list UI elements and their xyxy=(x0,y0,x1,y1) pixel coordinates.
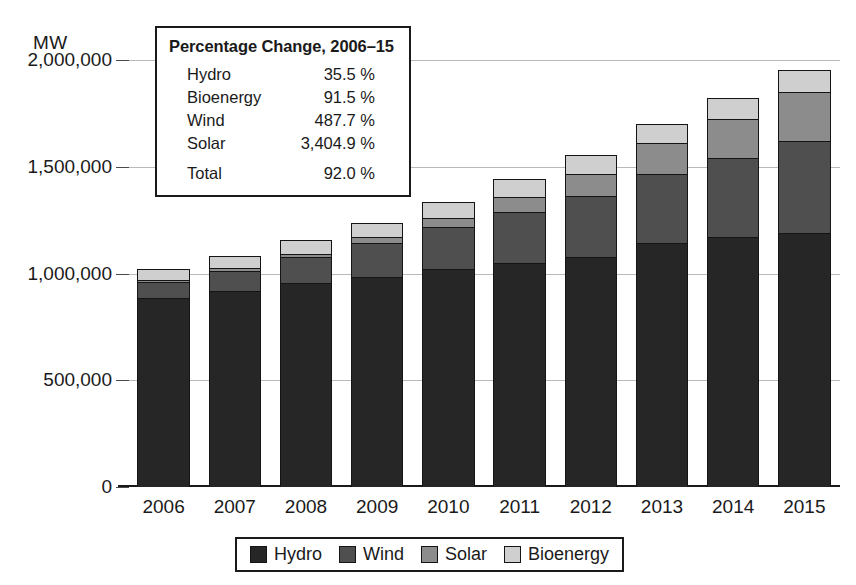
x-axis-label: 2007 xyxy=(214,496,256,518)
x-axis-label: 2008 xyxy=(285,496,327,518)
inset-row-value: 487.7 % xyxy=(281,109,397,132)
x-axis-label: 2013 xyxy=(641,496,683,518)
bar-group[interactable]: 2014 xyxy=(707,60,759,487)
legend-label: Wind xyxy=(363,544,404,565)
bar-segment-bioenergy[interactable] xyxy=(707,98,759,119)
legend-label: Hydro xyxy=(274,544,322,565)
inset-title: Percentage Change, 2006–15 xyxy=(169,37,397,56)
inset-total-value: 92.0 % xyxy=(281,155,397,185)
legend-swatch-icon xyxy=(504,546,521,563)
y-axis-label: 1,000,000 xyxy=(27,263,112,285)
bar-segment-wind[interactable] xyxy=(493,212,545,263)
bar-segment-wind[interactable] xyxy=(351,243,403,277)
bar-segment-hydro[interactable] xyxy=(707,237,759,487)
legend-item-bioenergy[interactable]: Bioenergy xyxy=(504,544,609,565)
bar-group[interactable]: 2011 xyxy=(493,60,545,487)
bar-group[interactable]: 2010 xyxy=(422,60,474,487)
bar-segment-bioenergy[interactable] xyxy=(351,223,403,238)
inset-row-value: 35.5 % xyxy=(281,63,397,86)
bar-segment-hydro[interactable] xyxy=(636,243,688,487)
bar-segment-solar[interactable] xyxy=(351,237,403,242)
bar-segment-solar[interactable] xyxy=(209,268,261,270)
bar-segment-solar[interactable] xyxy=(422,218,474,227)
inset-row-label: Solar xyxy=(169,132,281,155)
bar-segment-wind[interactable] xyxy=(137,282,189,298)
bar-segment-wind[interactable] xyxy=(707,158,759,237)
bar-group[interactable]: 2013 xyxy=(636,60,688,487)
inset-row: Wind487.7 % xyxy=(169,109,397,132)
inset-row-label: Bioenergy xyxy=(169,86,281,109)
inset-row-value: 3,404.9 % xyxy=(281,132,397,155)
bar-segment-hydro[interactable] xyxy=(209,291,261,487)
bar-segment-bioenergy[interactable] xyxy=(493,179,545,197)
bar-segment-solar[interactable] xyxy=(280,254,332,258)
inset-row-label: Hydro xyxy=(169,63,281,86)
x-axis-label: 2006 xyxy=(142,496,184,518)
bar-segment-bioenergy[interactable] xyxy=(209,256,261,268)
bar-segment-wind[interactable] xyxy=(565,196,617,256)
bar-segment-solar[interactable] xyxy=(137,280,189,281)
legend-swatch-icon xyxy=(421,546,438,563)
legend-swatch-icon xyxy=(250,546,267,563)
bar-segment-wind[interactable] xyxy=(778,141,830,234)
bar-segment-bioenergy[interactable] xyxy=(636,124,688,144)
bar-segment-wind[interactable] xyxy=(422,227,474,269)
x-axis-label: 2009 xyxy=(356,496,398,518)
legend-swatch-icon xyxy=(339,546,356,563)
x-axis-label: 2015 xyxy=(783,496,825,518)
chart-legend: HydroWindSolarBioenergy xyxy=(235,537,624,572)
bar-segment-hydro[interactable] xyxy=(493,263,545,487)
bar-segment-bioenergy[interactable] xyxy=(137,269,189,280)
bar-segment-solar[interactable] xyxy=(493,197,545,213)
bar-group[interactable]: 2012 xyxy=(565,60,617,487)
y-axis-label: 2,000,000 xyxy=(27,49,112,71)
bar-segment-solar[interactable] xyxy=(707,119,759,158)
stacked-bar-chart: MW 0500,0001,000,0001,500,0002,000,000 2… xyxy=(0,0,856,585)
bar-segment-hydro[interactable] xyxy=(565,257,617,487)
bar-segment-wind[interactable] xyxy=(636,174,688,242)
percentage-change-inset: Percentage Change, 2006–15 Hydro35.5 %Bi… xyxy=(155,26,411,197)
inset-row-value: 91.5 % xyxy=(281,86,397,109)
inset-row: Bioenergy91.5 % xyxy=(169,86,397,109)
inset-total-label: Total xyxy=(169,155,281,185)
inset-row: Hydro35.5 % xyxy=(169,63,397,86)
x-axis-label: 2014 xyxy=(712,496,754,518)
legend-item-wind[interactable]: Wind xyxy=(339,544,404,565)
bar-segment-bioenergy[interactable] xyxy=(422,202,474,218)
bar-segment-hydro[interactable] xyxy=(778,233,830,487)
inset-row-label: Wind xyxy=(169,109,281,132)
x-axis-label: 2010 xyxy=(427,496,469,518)
legend-item-hydro[interactable]: Hydro xyxy=(250,544,322,565)
bar-segment-wind[interactable] xyxy=(280,257,332,283)
bar-segment-hydro[interactable] xyxy=(422,269,474,487)
legend-item-solar[interactable]: Solar xyxy=(421,544,487,565)
y-axis-label: 0 xyxy=(101,476,112,498)
bar-segment-hydro[interactable] xyxy=(351,277,403,487)
bar-segment-hydro[interactable] xyxy=(137,298,189,487)
y-axis-label: 500,000 xyxy=(43,369,112,391)
y-axis-tick xyxy=(116,487,129,488)
bar-segment-bioenergy[interactable] xyxy=(778,70,830,92)
bar-segment-solar[interactable] xyxy=(778,92,830,141)
bar-group[interactable]: 2015 xyxy=(778,60,830,487)
bar-segment-bioenergy[interactable] xyxy=(280,240,332,253)
y-axis-label: 1,500,000 xyxy=(27,156,112,178)
bar-segment-solar[interactable] xyxy=(565,174,617,197)
bar-segment-hydro[interactable] xyxy=(280,283,332,487)
x-axis-label: 2012 xyxy=(570,496,612,518)
legend-label: Solar xyxy=(445,544,487,565)
bar-segment-solar[interactable] xyxy=(636,143,688,174)
inset-row: Solar3,404.9 % xyxy=(169,132,397,155)
bar-segment-bioenergy[interactable] xyxy=(565,155,617,174)
x-axis-label: 2011 xyxy=(499,496,540,518)
inset-table: Hydro35.5 %Bioenergy91.5 %Wind487.7 %Sol… xyxy=(169,63,397,185)
inset-total-row: Total92.0 % xyxy=(169,155,397,185)
legend-label: Bioenergy xyxy=(528,544,609,565)
bar-segment-wind[interactable] xyxy=(209,271,261,291)
